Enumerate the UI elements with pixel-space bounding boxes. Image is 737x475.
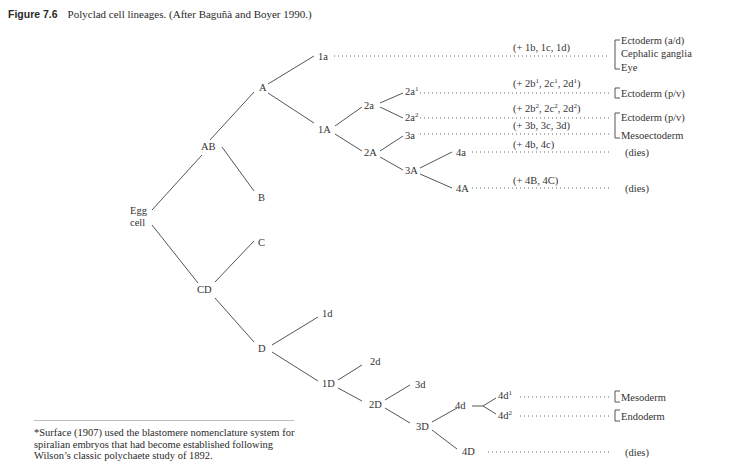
equiv-2a2: (+ 2b2, 2c2, 2d2) — [513, 102, 581, 115]
equiv-4A: (+ 4B, 4C) — [513, 175, 559, 187]
fate-4A: (dies) — [625, 183, 649, 195]
footnote-divider — [34, 420, 294, 421]
node-egg-line1: Egg — [130, 205, 148, 216]
node-3d: 3d — [415, 379, 426, 390]
node-2D: 2D — [369, 399, 382, 410]
node-2a1: 2a1 — [405, 85, 419, 97]
fate-2a1: Ectoderm (p/v) — [621, 88, 685, 100]
node-2a: 2a — [364, 100, 374, 111]
node-B: B — [258, 192, 265, 203]
node-4A: 4A — [456, 183, 469, 194]
fate-4d2: Endoderm — [621, 411, 665, 422]
fate-4D: (dies) — [625, 447, 649, 459]
equiv-4a: (+ 4b, 4c) — [513, 139, 555, 151]
fate-4d1: Mesoderm — [621, 392, 666, 403]
node-AB: AB — [201, 141, 216, 152]
equiv-3a: (+ 3b, 3c, 3d) — [513, 120, 570, 132]
node-4d1: 4d1 — [498, 389, 513, 401]
node-3A: 3A — [405, 165, 418, 176]
node-4a: 4a — [456, 147, 466, 158]
node-1A: 1A — [318, 124, 331, 135]
fate-brackets — [615, 40, 620, 421]
node-C: C — [258, 237, 265, 248]
fate-3a: Mesoectoderm — [621, 130, 683, 141]
node-3D: 3D — [416, 421, 429, 432]
node-egg-line2: cell — [130, 217, 145, 228]
equiv-1a: (+ 1b, 1c, 1d) — [513, 42, 570, 54]
cell-lineage-tree: Egg cell AB A B 1a 1A 2a 2A 2a1 2a2 3a 3… — [0, 0, 737, 475]
node-2a2: 2a2 — [405, 111, 419, 123]
node-1d: 1d — [322, 308, 333, 319]
node-3a: 3a — [405, 130, 415, 141]
node-4D: 4D — [462, 446, 475, 457]
node-1a: 1a — [318, 51, 328, 62]
node-D: D — [258, 343, 266, 354]
fate-2a2: Ectoderm (p/v) — [621, 112, 685, 124]
footnote: *Surface (1907) used the blastomere nome… — [34, 427, 304, 462]
dotted-leaders — [334, 56, 612, 452]
tree-branches — [152, 56, 496, 449]
fate-1a-cephalic-ganglia: Cephalic ganglia — [621, 48, 692, 59]
node-CD: CD — [197, 284, 212, 295]
node-1D: 1D — [322, 378, 335, 389]
node-4d2: 4d2 — [498, 409, 513, 421]
fate-1a-ectoderm: Ectoderm (a/d) — [621, 35, 685, 47]
fate-1a-eye: Eye — [621, 62, 638, 73]
fate-4a: (dies) — [625, 147, 649, 159]
equiv-2a1: (+ 2b1, 2c1, 2d1) — [513, 77, 581, 90]
node-2d: 2d — [370, 356, 381, 367]
node-4d: 4d — [455, 400, 466, 411]
node-A: A — [259, 82, 267, 93]
node-2A: 2A — [364, 147, 377, 158]
